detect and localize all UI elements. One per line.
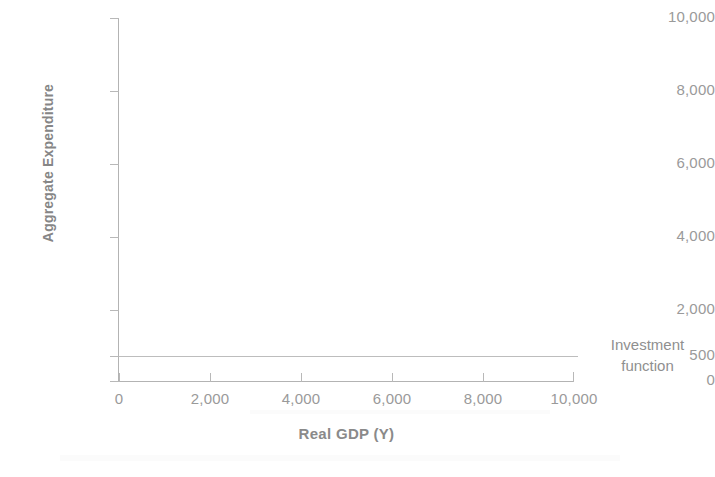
y-tick-0 bbox=[110, 381, 119, 382]
x-axis-title: Real GDP (Y) bbox=[119, 425, 574, 442]
y-tick-500 bbox=[110, 356, 119, 357]
y-tick-label-4000: 4,000 bbox=[603, 227, 715, 244]
y-tick-6000 bbox=[110, 164, 119, 165]
investment-function-annotation-line2: function bbox=[585, 355, 710, 376]
x-axis-end-cap bbox=[573, 372, 574, 382]
x-tick-label-10000: 10,000 bbox=[514, 390, 634, 407]
x-tick-6000 bbox=[392, 373, 393, 382]
scan-artifact bbox=[60, 455, 620, 461]
investment-function-annotation: Investment function bbox=[585, 334, 710, 376]
y-tick-4000 bbox=[110, 237, 119, 238]
x-axis-line bbox=[118, 381, 574, 382]
y-tick-8000 bbox=[110, 91, 119, 92]
y-axis-line bbox=[118, 18, 119, 382]
y-tick-10000 bbox=[110, 18, 119, 19]
investment-function-annotation-line1: Investment bbox=[585, 334, 710, 355]
y-tick-label-8000: 8,000 bbox=[603, 81, 715, 98]
y-tick-label-2000: 2,000 bbox=[603, 300, 715, 317]
y-tick-label-6000: 6,000 bbox=[603, 154, 715, 171]
x-tick-0 bbox=[119, 373, 120, 382]
y-tick-2000 bbox=[110, 310, 119, 311]
x-tick-4000 bbox=[301, 373, 302, 382]
x-tick-2000 bbox=[210, 373, 211, 382]
investment-function-line bbox=[119, 356, 578, 357]
y-tick-label-10000: 10,000 bbox=[603, 8, 715, 25]
y-axis-title: Aggregate Expenditure bbox=[40, 33, 56, 293]
chart-figure: 10,000 8,000 6,000 4,000 2,000 500 0 0 2… bbox=[0, 0, 715, 477]
scan-artifact bbox=[250, 410, 550, 414]
x-tick-8000 bbox=[483, 373, 484, 382]
